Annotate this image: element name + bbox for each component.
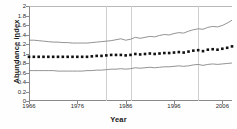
data-point-marker bbox=[66, 56, 69, 59]
data-point-marker bbox=[134, 53, 137, 56]
x-tick-mark bbox=[77, 101, 78, 104]
data-point-marker bbox=[62, 56, 65, 59]
data-point-marker bbox=[231, 45, 234, 48]
data-point-marker bbox=[28, 56, 31, 59]
data-point-marker bbox=[153, 53, 156, 56]
data-point-marker bbox=[149, 52, 152, 55]
data-point-marker bbox=[91, 55, 94, 58]
data-point-marker bbox=[42, 56, 45, 59]
data-point-marker bbox=[182, 51, 185, 54]
data-point-marker bbox=[115, 54, 118, 57]
series-layer bbox=[29, 6, 232, 101]
x-tick-label: 2006 bbox=[202, 103, 237, 109]
y-tick-label: 0.8 bbox=[6, 60, 26, 66]
data-point-marker bbox=[100, 55, 103, 58]
y-tick-label: 2 bbox=[6, 3, 26, 9]
confidence-limit-line bbox=[29, 20, 232, 43]
data-point-marker bbox=[110, 54, 113, 57]
x-axis-title: Year bbox=[0, 115, 237, 124]
abundance-index-chart: Abundance index Year 00.20.40.60.811.21.… bbox=[0, 0, 237, 129]
data-point-marker bbox=[144, 53, 147, 56]
data-point-marker bbox=[216, 48, 219, 51]
data-point-marker bbox=[71, 56, 74, 59]
data-point-marker bbox=[197, 49, 200, 52]
y-tick-label: 1.4 bbox=[6, 32, 26, 38]
plot-area bbox=[29, 6, 232, 101]
data-point-marker bbox=[95, 55, 98, 58]
x-tick-mark bbox=[29, 101, 30, 104]
data-point-marker bbox=[120, 54, 123, 57]
data-point-marker bbox=[192, 49, 195, 52]
data-point-marker bbox=[211, 48, 214, 51]
y-tick-label: 0.4 bbox=[6, 79, 26, 85]
x-tick-mark bbox=[222, 101, 223, 104]
data-point-marker bbox=[139, 53, 142, 56]
y-axis-tick-labels: 00.20.40.60.811.21.41.61.82 bbox=[6, 0, 26, 129]
index-marker-series bbox=[28, 45, 234, 58]
confidence-limit-line bbox=[29, 63, 232, 71]
data-point-marker bbox=[86, 56, 89, 59]
data-point-marker bbox=[158, 52, 161, 55]
y-tick-label: 1.2 bbox=[6, 41, 26, 47]
data-point-marker bbox=[33, 56, 36, 59]
x-tick-mark bbox=[126, 101, 127, 104]
data-point-marker bbox=[207, 48, 210, 51]
data-point-marker bbox=[202, 50, 205, 53]
y-tick-label: 1.8 bbox=[6, 13, 26, 19]
data-point-marker bbox=[178, 51, 181, 54]
data-point-marker bbox=[76, 56, 79, 59]
y-tick-label: 1 bbox=[6, 51, 26, 57]
data-point-marker bbox=[57, 56, 60, 59]
y-tick-label: 0.6 bbox=[6, 70, 26, 76]
data-point-marker bbox=[37, 56, 40, 59]
data-point-marker bbox=[129, 54, 132, 57]
data-point-marker bbox=[124, 54, 127, 57]
y-tick-label: 0.2 bbox=[6, 89, 26, 95]
data-point-marker bbox=[168, 52, 171, 55]
data-point-marker bbox=[226, 47, 229, 50]
data-point-marker bbox=[81, 56, 84, 59]
data-point-marker bbox=[47, 56, 50, 59]
data-point-marker bbox=[52, 56, 55, 59]
x-tick-mark bbox=[174, 101, 175, 104]
data-point-marker bbox=[221, 47, 224, 50]
data-point-marker bbox=[105, 54, 108, 57]
y-tick-label: 1.6 bbox=[6, 22, 26, 28]
data-point-marker bbox=[187, 50, 190, 53]
data-point-marker bbox=[163, 52, 166, 55]
data-point-marker bbox=[173, 51, 176, 54]
